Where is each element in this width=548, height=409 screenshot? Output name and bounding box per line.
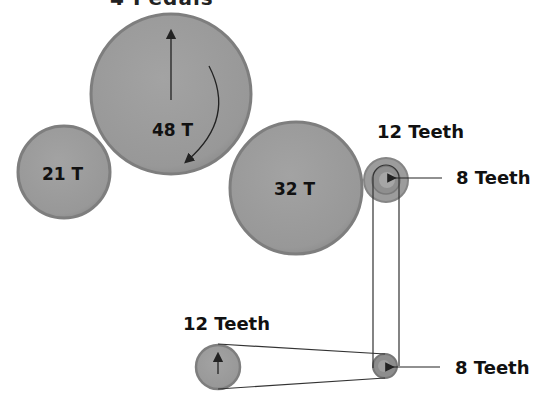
gear-21-teeth: 21 T (18, 126, 110, 218)
gear-48-teeth: 48 T (91, 14, 251, 174)
label-12-teeth-top: 12 Teeth (377, 121, 464, 142)
gear-48-label: 48 T (152, 120, 194, 140)
gear-32-label: 32 T (274, 179, 316, 199)
label-12-teeth-bottom: 12 Teeth (183, 313, 270, 334)
gear-21-label: 21 T (42, 164, 84, 184)
gear-32-teeth: 32 T (230, 122, 362, 254)
label-8-teeth-top: 8 Teeth (456, 167, 531, 188)
label-8-teeth-bottom: 8 Teeth (455, 357, 530, 378)
horizontal-chain (218, 344, 385, 389)
gear-train-diagram: 48 T 21 T 32 T 12 Teeth 8 Teeth 12 Teet (0, 0, 548, 409)
sprocket-12-bottom (196, 345, 240, 389)
sprocket-8-bottom (373, 354, 397, 378)
